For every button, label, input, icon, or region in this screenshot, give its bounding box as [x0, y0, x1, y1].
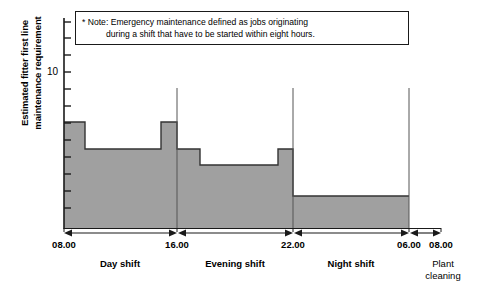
shift-label-plant-cleaning-line-2: cleaning — [425, 270, 460, 281]
x-axis-label-08-00-end: 08.00 — [419, 239, 463, 250]
arrowhead-left-16-00 — [178, 230, 186, 237]
maintenance-requirement-chart: Estimated fitter first line maintenance … — [0, 0, 495, 295]
arrowhead-left-06-00 — [410, 230, 418, 237]
shift-label-day: Day shift — [65, 258, 175, 269]
step-area-series — [64, 122, 409, 228]
arrowhead-right-06-00 — [401, 230, 409, 237]
arrowhead-left-08-00 — [64, 230, 72, 237]
x-axis-label-22-00: 22.00 — [271, 239, 315, 250]
shift-label-plant-cleaning-line-1: Plant — [432, 258, 454, 269]
arrowhead-right-16-00 — [169, 230, 177, 237]
arrowhead-right-22-00 — [285, 230, 293, 237]
shift-label-evening: Evening shift — [180, 258, 290, 269]
shift-label-night: Night shift — [296, 258, 406, 269]
arrowhead-left-22-00 — [294, 230, 302, 237]
note-line-2: during a shift that have to be started w… — [82, 28, 402, 40]
x-axis-label-16-00: 16.00 — [155, 239, 199, 250]
note-box: * Note: Emergency maintenance defined as… — [75, 11, 409, 45]
arrowhead-right-08-00 — [433, 230, 441, 237]
step-area-fill — [64, 122, 409, 228]
note-line-1: * Note: Emergency maintenance defined as… — [82, 16, 402, 28]
x-axis-label-08-00-start: 08.00 — [42, 239, 86, 250]
